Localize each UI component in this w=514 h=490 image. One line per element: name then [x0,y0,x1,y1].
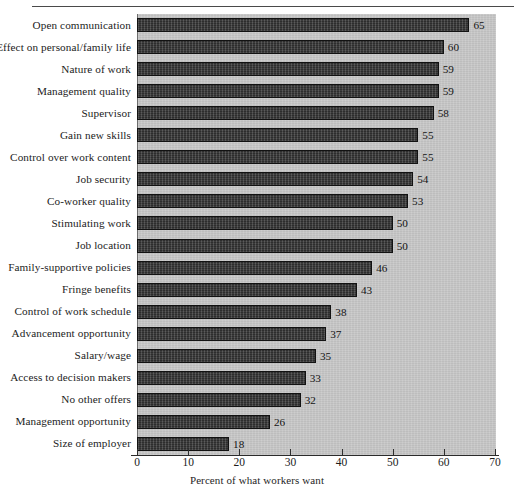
top-horizontal-rule [32,6,514,7]
category-label: Size of employer [53,439,131,450]
bar-row: Open communication65 [0,14,514,37]
x-tick-label: 50 [387,457,399,469]
x-tick-label: 0 [134,457,140,469]
bar-value-label: 50 [397,216,408,230]
bar [137,172,413,186]
bar-value-label: 55 [422,128,433,142]
x-tick-mark [137,449,138,455]
bar [137,150,418,164]
bar [137,305,331,319]
bar-row: Advancement opportunity37 [0,323,514,346]
bar-row: Gain new skills55 [0,124,514,147]
bar-chart-figure: Open communication65Effect on personal/f… [0,0,514,490]
bar [137,371,306,385]
category-label: Advancement opportunity [12,329,131,340]
category-label: Job security [76,174,131,185]
bar [137,194,408,208]
bar [137,327,326,341]
bar-value-label: 60 [448,40,459,54]
category-label: No other offers [61,395,131,406]
category-label: Job location [75,240,131,251]
category-label: Effect on personal/family life [0,42,131,53]
x-tick-mark [495,449,496,455]
bar-row: Stimulating work50 [0,212,514,235]
bar-value-label: 50 [397,239,408,253]
bar-row: Family-supportive policies46 [0,257,514,280]
x-axis-title: Percent of what workers want [0,474,514,486]
category-label: Control of work schedule [15,307,131,318]
x-tick-mark [393,449,394,455]
bar [137,283,357,297]
bar-value-label: 59 [443,84,454,98]
bar [137,106,434,120]
bar [137,216,393,230]
bar [137,62,439,76]
bar [137,40,444,54]
bar [137,18,469,32]
bar [137,239,393,253]
category-label: Salary/wage [75,351,131,362]
bar-row: Effect on personal/family life60 [0,36,514,59]
bar [137,128,418,142]
bar [137,349,316,363]
bar-row: Management opportunity26 [0,411,514,434]
bar-row: Salary/wage35 [0,345,514,368]
category-label: Fringe benefits [62,284,131,295]
category-label: Stimulating work [51,218,131,229]
x-tick-mark [290,449,291,455]
bar-row: Job location50 [0,235,514,258]
bar-value-label: 54 [417,172,428,186]
x-tick-mark [239,449,240,455]
category-label: Nature of work [61,64,131,75]
bar-row: Supervisor58 [0,102,514,125]
category-label: Supervisor [82,108,131,119]
bar-value-label: 33 [310,371,321,385]
x-tick-mark [188,449,189,455]
category-label: Open communication [33,20,131,31]
category-label: Family-supportive policies [8,262,131,273]
bar-value-label: 43 [361,283,372,297]
bar-value-label: 59 [443,62,454,76]
bar-row: Control over work content55 [0,146,514,169]
bar-row: No other offers32 [0,389,514,412]
bar-value-label: 35 [320,349,331,363]
bar [137,84,439,98]
x-tick-label: 20 [234,457,246,469]
bar-row: Co-worker quality53 [0,190,514,213]
bar-row: Job security54 [0,168,514,191]
category-label: Control over work content [10,152,131,163]
category-label: Access to decision makers [10,373,131,384]
bar-row: Fringe benefits43 [0,279,514,302]
bar [137,393,301,407]
bar [137,261,372,275]
bar-row: Access to decision makers33 [0,367,514,390]
bar [137,415,270,429]
x-tick-label: 10 [182,457,194,469]
category-label: Management opportunity [15,417,131,428]
x-tick-label: 70 [489,457,501,469]
x-tick-label: 40 [336,457,348,469]
bar-value-label: 26 [274,415,285,429]
bar-value-label: 65 [473,18,484,32]
bar-value-label: 58 [438,106,449,120]
bar-value-label: 53 [412,194,423,208]
bar-value-label: 32 [305,393,316,407]
bar-value-label: 37 [330,327,341,341]
bar-value-label: 38 [335,305,346,319]
x-tick-mark [342,449,343,455]
bar-row: Control of work schedule38 [0,301,514,324]
x-tick-label: 60 [438,457,450,469]
x-tick-label: 30 [285,457,297,469]
bar-row: Nature of work59 [0,58,514,81]
category-label: Management quality [37,86,131,97]
x-tick-mark [444,449,445,455]
bar [137,437,229,451]
bar-row: Size of employer18 [0,433,514,456]
bar-row: Management quality59 [0,80,514,103]
bar-value-label: 46 [376,261,387,275]
category-label: Co-worker quality [47,196,131,207]
bar-value-label: 55 [422,150,433,164]
category-label: Gain new skills [60,130,131,141]
